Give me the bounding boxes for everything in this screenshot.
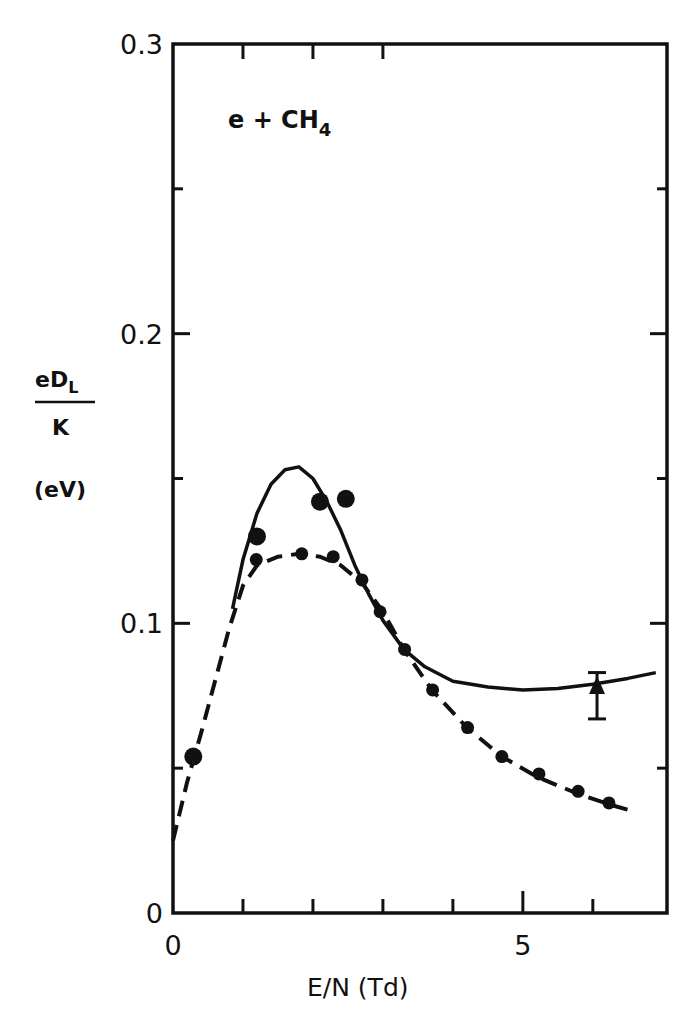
small-dot-marker bbox=[495, 750, 508, 763]
y-axis-label: eDL K (eV) bbox=[34, 367, 95, 502]
small-dot-marker bbox=[398, 643, 411, 656]
axes-box bbox=[173, 44, 667, 913]
axis-ticks bbox=[173, 44, 667, 913]
y-tick-label: 0.2 bbox=[120, 319, 163, 350]
dashed-curve bbox=[173, 554, 635, 841]
small-dot-marker bbox=[355, 573, 368, 586]
reaction-annotation: e + CH4 bbox=[228, 106, 331, 140]
y-tick-label: 0.3 bbox=[120, 29, 163, 60]
solid-curve bbox=[233, 467, 656, 690]
small-dot-marker bbox=[295, 547, 308, 560]
large-dot-marker bbox=[337, 490, 355, 508]
plot-frame bbox=[173, 44, 667, 913]
data-series bbox=[173, 467, 656, 841]
small-dot-marker bbox=[426, 683, 439, 696]
small-dot-marker bbox=[572, 785, 585, 798]
x-axis-title: E/N (Td) bbox=[307, 973, 409, 1002]
y-label-numerator: eDL bbox=[35, 367, 78, 397]
large-dot-marker bbox=[184, 748, 202, 766]
large-dot-marker bbox=[248, 527, 266, 545]
x-tick-label: 5 bbox=[514, 930, 531, 961]
small-dot-marker bbox=[250, 553, 263, 566]
chart: 0500.10.20.3 e + CH4 eDL K (eV) E/N (Td) bbox=[0, 0, 696, 1033]
large-dot-marker bbox=[311, 493, 329, 511]
y-label-denominator: K bbox=[52, 415, 70, 440]
small-dot-marker bbox=[602, 796, 615, 809]
small-dot-marker bbox=[461, 721, 474, 734]
y-label-units: (eV) bbox=[34, 477, 86, 502]
y-tick-label: 0.1 bbox=[120, 608, 163, 639]
small-dot-marker bbox=[327, 550, 340, 563]
x-tick-label: 0 bbox=[164, 930, 181, 961]
y-tick-label: 0 bbox=[146, 898, 163, 929]
small-dot-marker bbox=[532, 767, 545, 780]
small-dot-marker bbox=[374, 605, 387, 618]
